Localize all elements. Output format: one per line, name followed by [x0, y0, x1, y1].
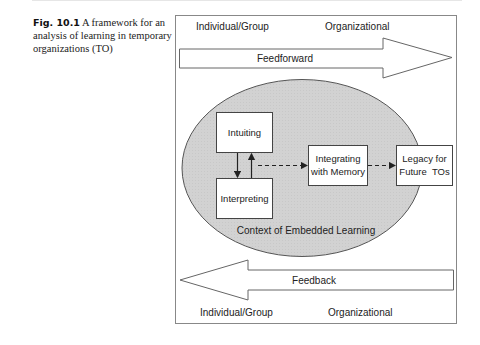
bottom-label-individual-group: Individual/Group: [200, 307, 273, 318]
integrating-label-line1: Integrating: [316, 153, 361, 164]
intuiting-box: Intuiting: [217, 113, 273, 153]
integrating-label-line2: with Memory: [310, 166, 365, 177]
context-label: Context of Embedded Learning: [237, 225, 375, 236]
feedforward-label: Feedforward: [257, 53, 313, 64]
legacy-label-line1: Legacy for: [402, 153, 446, 164]
interpreting-label: Interpreting: [220, 193, 268, 204]
legacy-label-line2: Future TOs: [399, 166, 450, 177]
legacy-for-future-tos-box: Legacy for Future TOs: [397, 146, 453, 186]
intuiting-label: Intuiting: [228, 127, 261, 138]
top-label-organizational: Organizational: [325, 21, 389, 32]
integrating-with-memory-box: Integrating with Memory: [309, 146, 368, 186]
framework-diagram: Individual/Group Organizational Feedforw…: [0, 0, 480, 345]
top-label-individual-group: Individual/Group: [196, 21, 269, 32]
interpreting-box: Interpreting: [217, 179, 273, 219]
feedback-label: Feedback: [292, 275, 337, 286]
bottom-label-organizational: Organizational: [328, 307, 392, 318]
context-of-embedded-learning: Context of Embedded Learning: [182, 80, 422, 257]
